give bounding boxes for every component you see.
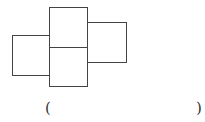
square-net-figure xyxy=(0,0,205,122)
answer-blank-close-paren: ) xyxy=(196,99,202,117)
answer-blank-open-paren: ( xyxy=(45,99,51,117)
square-middle-bottom xyxy=(50,48,88,87)
square-right xyxy=(88,23,127,63)
square-left xyxy=(13,36,50,76)
square-middle-top xyxy=(50,8,88,48)
